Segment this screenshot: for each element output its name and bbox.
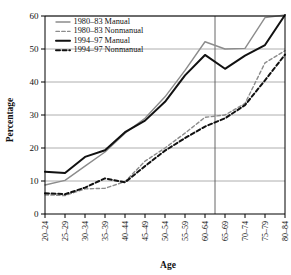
y-tick-label: 60 <box>30 11 40 21</box>
x-tick-label: 45–49 <box>141 221 150 241</box>
legend-label-2: 1994–97 Manual <box>74 36 131 45</box>
chart-canvas: 0102030405060 20–2425–2930–3435–3940–444… <box>0 0 291 275</box>
x-tick-label: 40–44 <box>121 221 130 241</box>
y-axis-ticks: 0102030405060 <box>30 11 46 219</box>
x-axis-title: Age <box>160 260 176 270</box>
legend-label-3: 1994–97 Nonmanual <box>74 45 145 54</box>
legend-label-1: 1980–83 Nonmanual <box>74 26 145 35</box>
x-tick-label: 70–74 <box>241 221 250 241</box>
line-chart: 0102030405060 20–2425–2930–3435–3940–444… <box>0 0 291 275</box>
y-axis-title: Percentage <box>5 98 15 143</box>
chart-legend: 1980–83 Manual1980–83 Nonmanual1994–97 M… <box>56 17 144 54</box>
y-tick-label: 10 <box>30 176 40 186</box>
x-tick-label: 35–39 <box>101 221 110 241</box>
y-tick-label: 30 <box>30 110 40 120</box>
y-tick-label: 50 <box>30 44 40 54</box>
x-tick-label: 80–84 <box>281 221 290 241</box>
y-tick-label: 20 <box>30 143 40 153</box>
x-tick-label: 25–29 <box>61 221 70 241</box>
x-tick-label: 75–79 <box>261 221 270 241</box>
legend-label-0: 1980–83 Manual <box>74 17 131 26</box>
x-tick-label: 20–24 <box>41 221 50 241</box>
x-tick-label: 30–34 <box>81 221 90 241</box>
x-axis-ticks: 20–2425–2930–3435–3940–4445–4950–5455–59… <box>41 214 290 241</box>
series-line-1 <box>45 51 285 196</box>
x-tick-label: 55–59 <box>181 221 190 241</box>
y-tick-label: 40 <box>30 77 40 87</box>
x-tick-label: 50–54 <box>161 221 170 241</box>
x-tick-label: 65–69 <box>221 221 230 241</box>
y-tick-label: 0 <box>34 209 39 219</box>
x-tick-label: 60–64 <box>201 221 210 241</box>
series-line-3 <box>45 55 285 195</box>
